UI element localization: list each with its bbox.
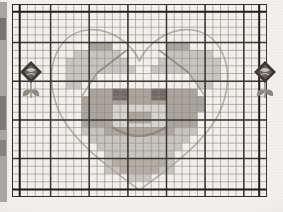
pattern-page [0, 0, 283, 212]
cross-stitch-chart [0, 0, 283, 212]
bear-nose [128, 112, 151, 124]
page-binding-strip [0, 2, 7, 202]
